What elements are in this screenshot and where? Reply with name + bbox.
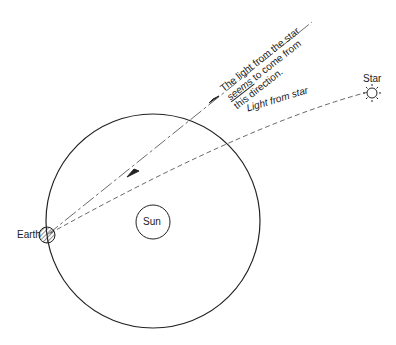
star-label: Star: [363, 73, 381, 84]
diagram-drawing: [0, 0, 396, 345]
light-arrowhead-icon: [127, 169, 139, 177]
actual-light-path: [47, 92, 368, 235]
earth-label: Earth: [17, 229, 41, 240]
apparent-arrowhead-icon: [209, 96, 219, 103]
earth-icon: [39, 227, 55, 243]
aberration-diagram: Earth Sun Star Light from star The light…: [0, 0, 396, 345]
sun-label: Sun: [143, 216, 161, 227]
